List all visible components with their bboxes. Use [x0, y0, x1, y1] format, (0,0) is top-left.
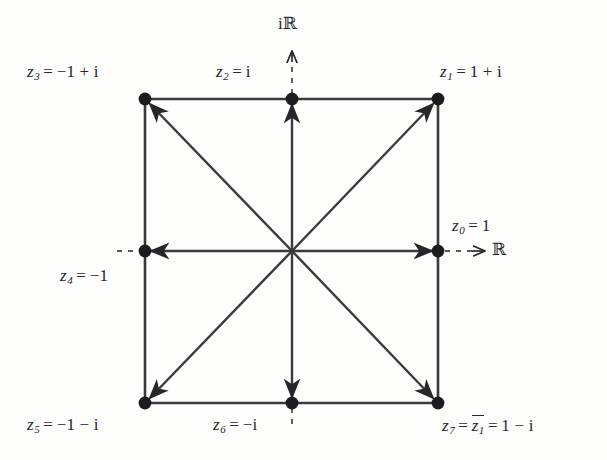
vertex-label-z0: z0=1: [452, 216, 490, 236]
imaginary-axis-label: iℝ: [278, 13, 297, 34]
real-axis-label: ℝ: [492, 239, 506, 260]
vertex-label-z3-value: −1 + i: [57, 62, 99, 81]
vertex-label-z7-conjugate-sub: 1: [479, 424, 485, 436]
vertex-label-z5-value: −1 − i: [57, 415, 99, 434]
radial-arrows: [150, 104, 433, 398]
vertex-label-z1-sub: 1: [447, 70, 453, 82]
vertex-dot-z5: [139, 397, 152, 410]
real-axis-label-text: ℝ: [492, 240, 506, 259]
vertex-label-z2-value: i: [246, 62, 251, 81]
vertex-label-z1: z1=1 + i: [440, 62, 502, 82]
vertex-label-z6-sub: 6: [220, 423, 226, 435]
vertex-label-z4: z4=−1: [60, 266, 108, 286]
vertex-label-z3: z3=−1 + i: [27, 62, 99, 82]
vertex-label-z0-sub: 0: [459, 224, 465, 236]
vertex-label-z5: z5=−1 − i: [27, 415, 99, 435]
ray-to-z5: [150, 251, 292, 398]
vertex-label-z1-value: 1 + i: [470, 62, 502, 81]
vertex-dot-z4: [139, 245, 152, 258]
vertex-label-z7-conjugate: z1: [472, 415, 485, 436]
vertex-dot-z1: [432, 93, 445, 106]
ray-to-z1: [292, 104, 433, 251]
vertex-dot-z6: [286, 397, 299, 410]
ray-to-z3: [150, 104, 292, 251]
vertex-label-z7: z7=z1=1 − i: [442, 415, 534, 436]
vertex-label-z4-value: −1: [90, 266, 109, 285]
imaginary-axis-label-text: iℝ: [278, 14, 297, 33]
vertex-label-z4-sub: 4: [67, 274, 73, 286]
vertex-dot-z3: [139, 93, 152, 106]
vertex-label-z6: z6=−i: [213, 415, 257, 435]
vertex-dot-z7: [432, 397, 445, 410]
vertex-label-z7-sub: 7: [449, 424, 455, 436]
vertex-label-z6-value: −i: [243, 415, 258, 434]
vertex-label-z2: z2=i: [216, 62, 251, 82]
complex-plane-figure: iℝ ℝ z3=−1 + i z2=i z1=1 + i z0=1 z4=−1 …: [0, 0, 607, 460]
vertex-label-z5-sub: 5: [34, 423, 40, 435]
ray-to-z7: [292, 251, 433, 398]
vertex-label-z0-value: 1: [482, 216, 491, 235]
vertex-dot-z2: [286, 93, 299, 106]
vertex-label-z3-sub: 3: [34, 70, 40, 82]
vertex-dot-z0: [432, 245, 445, 258]
vertex-label-z7-value: 1 − i: [501, 416, 533, 435]
vertex-label-z2-sub: 2: [223, 70, 229, 82]
